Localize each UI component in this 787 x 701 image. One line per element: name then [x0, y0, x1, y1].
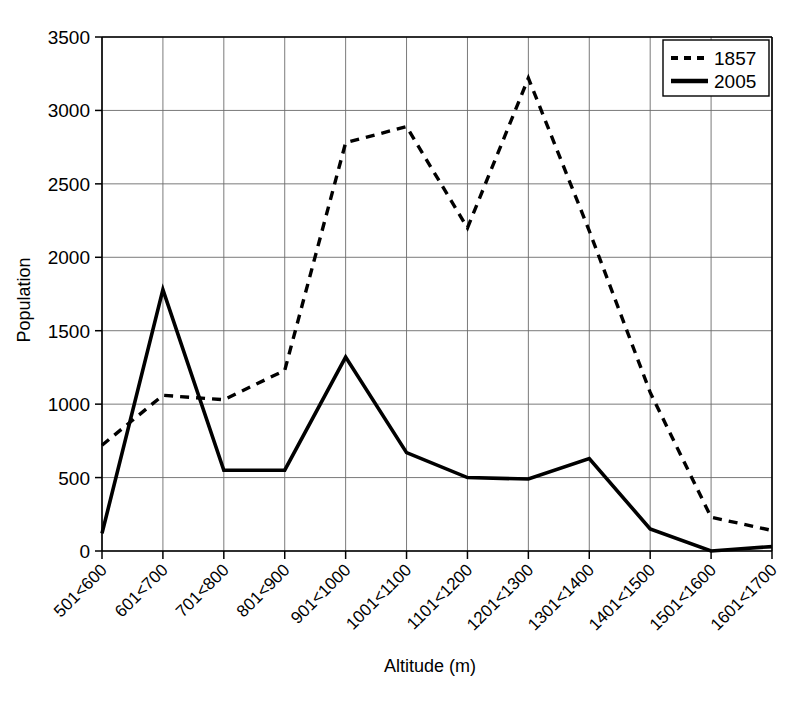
y-tick-label: 2000 [48, 247, 90, 268]
y-tick-label: 500 [58, 468, 90, 489]
x-axis-ticks: 501<600601<700701<800801<900901<10001001… [50, 551, 781, 634]
y-tick-label: 1500 [48, 321, 90, 342]
x-tick-label: 601<700 [111, 560, 172, 621]
y-axis-ticks: 0500100015002000250030003500 [48, 27, 102, 562]
grid-lines [102, 37, 772, 551]
chart-legend: 18572005 [663, 40, 769, 96]
axes [102, 37, 772, 551]
x-tick-label: 1601<1700 [707, 560, 781, 634]
chart-figure: 0500100015002000250030003500 501<600601<… [0, 0, 787, 701]
data-series [102, 78, 772, 551]
y-tick-label: 1000 [48, 394, 90, 415]
y-tick-label: 3500 [48, 27, 90, 48]
y-axis-title: Population [14, 257, 34, 342]
y-tick-label: 0 [79, 541, 90, 562]
series-line-1857 [102, 78, 772, 530]
series-line-2005 [102, 290, 772, 551]
y-tick-label: 3000 [48, 100, 90, 121]
legend-label-2005: 2005 [714, 71, 756, 92]
legend-label-1857: 1857 [714, 48, 756, 69]
x-tick-label: 501<600 [50, 560, 111, 621]
x-tick-label: 801<900 [233, 560, 294, 621]
x-tick-label: 701<800 [172, 560, 233, 621]
y-tick-label: 2500 [48, 174, 90, 195]
x-axis-title: Altitude (m) [384, 656, 476, 676]
population-altitude-line-chart: 0500100015002000250030003500 501<600601<… [0, 0, 787, 701]
